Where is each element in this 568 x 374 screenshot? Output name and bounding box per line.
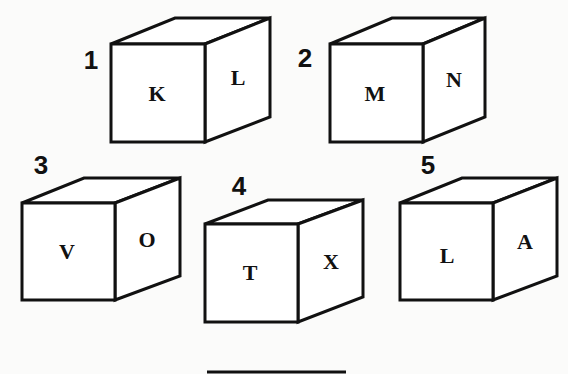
cube-2: M N 2 — [298, 18, 485, 142]
cube-2-front-letter: M — [365, 81, 386, 106]
cube-3-front-letter: V — [59, 239, 75, 264]
cube-4: T X 4 — [205, 171, 363, 322]
cube-4-number: 4 — [232, 171, 247, 201]
cube-4-front-letter: T — [243, 260, 258, 285]
cube-4-side-letter: X — [323, 249, 339, 274]
cube-5-number: 5 — [421, 150, 435, 180]
cube-3-side-letter: O — [138, 227, 155, 252]
cube-1: K L 1 — [84, 18, 270, 142]
cube-5: L A 5 — [400, 150, 557, 300]
cube-2-number: 2 — [298, 43, 312, 73]
cube-5-side-letter: A — [517, 229, 533, 254]
cube-3: V O 3 — [22, 150, 180, 300]
cube-5-front-letter: L — [440, 243, 455, 268]
cube-2-side-letter: N — [446, 67, 462, 92]
cube-1-side-letter: L — [231, 65, 246, 90]
cube-puzzle-diagram: K L 1 M N 2 V O 3 T X 4 L A 5 — [0, 0, 568, 374]
cube-1-number: 1 — [84, 45, 98, 75]
cube-3-number: 3 — [34, 150, 48, 180]
cube-1-front-letter: K — [148, 81, 165, 106]
